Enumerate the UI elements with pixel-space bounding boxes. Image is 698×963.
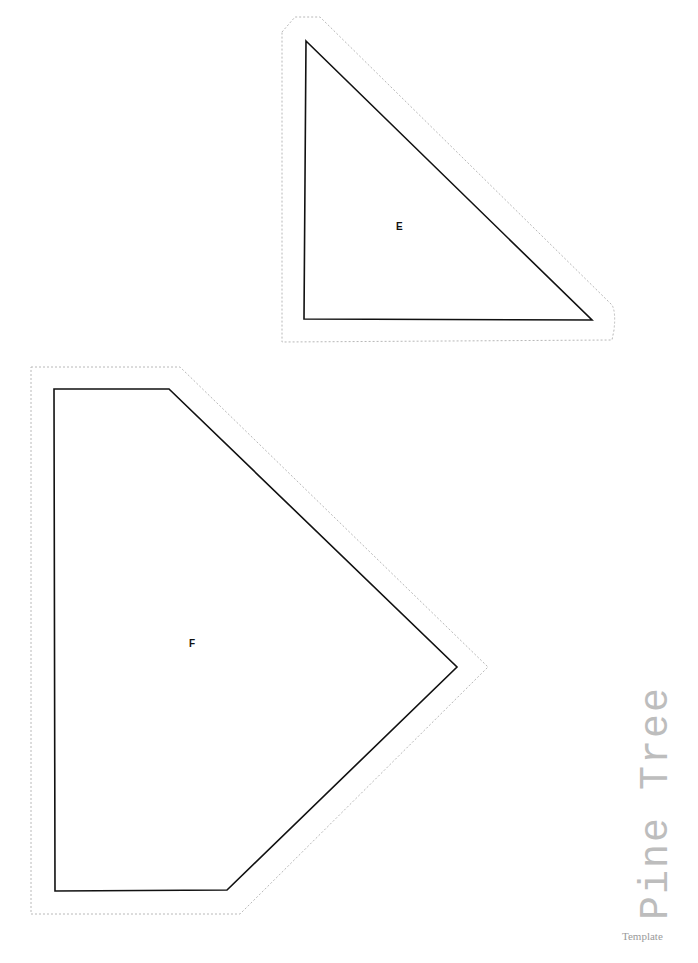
piece-f-cut-line bbox=[31, 367, 488, 914]
piece-f-label: F bbox=[189, 638, 195, 649]
document-title: Pine Tree bbox=[634, 686, 679, 920]
template-canvas: E F bbox=[0, 0, 698, 963]
piece-e-outline bbox=[304, 41, 592, 320]
piece-e: E bbox=[282, 17, 615, 342]
piece-e-label: E bbox=[396, 221, 403, 232]
document-subtitle: Template bbox=[622, 930, 663, 942]
piece-f: F bbox=[31, 367, 488, 914]
piece-f-outline bbox=[54, 389, 457, 891]
